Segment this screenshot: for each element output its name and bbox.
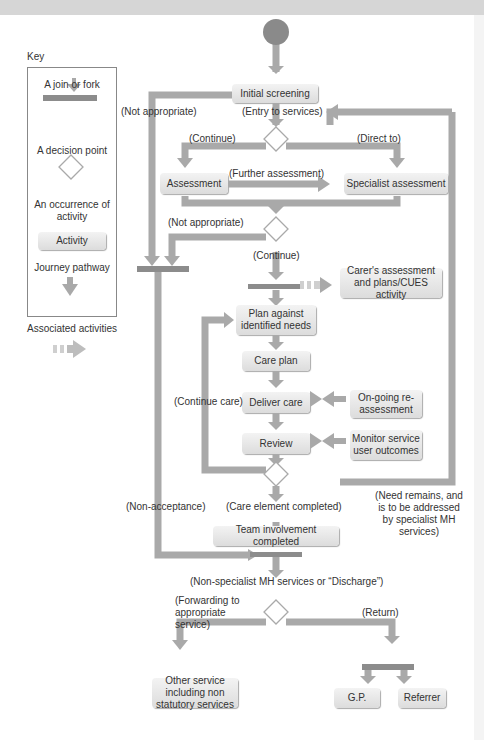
key-activity-sample: Activity bbox=[38, 232, 106, 250]
activity-review[interactable]: Review bbox=[242, 433, 310, 454]
label-not-appropriate-2: (Not appropriate) bbox=[168, 217, 244, 229]
label-non-acceptance: (Non-acceptance) bbox=[126, 501, 205, 513]
activity-plan-against-needs[interactable]: Plan against identified needs bbox=[236, 305, 316, 335]
label-care-element-completed: (Care element completed) bbox=[226, 501, 342, 513]
label-not-appropriate-1: (Not appropriate) bbox=[121, 106, 197, 118]
activity-monitor-outcomes[interactable]: Monitor service user outcomes bbox=[350, 430, 422, 460]
label-further-assessment: (Further assessment) bbox=[229, 168, 324, 180]
key-title: Key bbox=[27, 51, 44, 62]
activity-deliver-care[interactable]: Deliver care bbox=[242, 392, 310, 413]
activity-other-service[interactable]: Other service including non statutory se… bbox=[152, 678, 238, 708]
activity-gp[interactable]: G.P. bbox=[334, 688, 380, 708]
label-non-specialist: (Non-specialist MH services or “Discharg… bbox=[190, 576, 383, 588]
activity-care-plan[interactable]: Care plan bbox=[242, 351, 310, 371]
key-legend bbox=[27, 67, 117, 317]
key-decision-label: A decision point bbox=[27, 145, 117, 157]
activity-carers-assessment[interactable]: Carer's assessment and plans/CUES activi… bbox=[340, 268, 442, 298]
label-continue-care: (Continue care) bbox=[174, 396, 243, 408]
activity-referrer[interactable]: Referrer bbox=[398, 688, 446, 708]
label-direct-to: (Direct to) bbox=[357, 133, 401, 145]
label-need-remains: (Need remains, and is to be addressed by… bbox=[372, 490, 466, 538]
activity-assessment[interactable]: Assessment bbox=[160, 173, 228, 194]
key-join-fork-label: A join or fork bbox=[27, 79, 117, 91]
activity-team-involvement-completed[interactable]: Team involvement completed bbox=[213, 526, 339, 546]
activity-initial-screening[interactable]: Initial screening bbox=[232, 84, 318, 103]
label-continue-2: (Continue) bbox=[253, 250, 300, 262]
key-associated-label: Associated activities bbox=[22, 323, 122, 335]
key-journey-label: Journey pathway bbox=[27, 262, 117, 274]
key-activity-label: An occurrence of activity bbox=[33, 199, 111, 223]
label-forwarding: (Forwarding to appropriate service) bbox=[175, 595, 260, 631]
label-continue: (Continue) bbox=[189, 133, 236, 145]
label-entry-to-services: (Entry to services) bbox=[242, 106, 323, 118]
label-return: (Return) bbox=[362, 607, 399, 619]
activity-ongoing-reassessment[interactable]: On-going re-assessment bbox=[350, 390, 422, 418]
activity-specialist-assessment[interactable]: Specialist assessment bbox=[344, 173, 448, 194]
